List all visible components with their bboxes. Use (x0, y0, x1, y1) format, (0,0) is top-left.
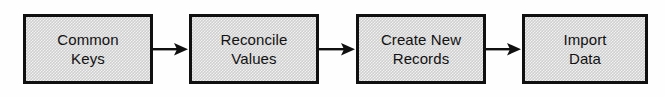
process-node-create-new-records[interactable]: Create New Records (356, 14, 486, 84)
arrow-right-icon (319, 41, 356, 57)
arrow-right-icon (486, 41, 522, 57)
diagram-canvas: Common Keys Reconcile Values Create New … (0, 0, 665, 97)
process-flow: Common Keys Reconcile Values Create New … (0, 0, 665, 97)
process-node-common-keys[interactable]: Common Keys (23, 14, 153, 84)
node-label-common-keys: Common Keys (57, 30, 118, 68)
node-label-create-new-records: Create New Records (381, 30, 461, 68)
arrow-connector-1 (153, 14, 189, 84)
node-label-reconcile-values: Reconcile Values (221, 30, 288, 68)
process-node-reconcile-values[interactable]: Reconcile Values (189, 14, 319, 84)
arrow-connector-3 (486, 14, 522, 84)
arrow-right-icon (153, 41, 189, 57)
left-margin-spacer (0, 14, 23, 84)
process-node-import-data[interactable]: Import Data (522, 14, 648, 84)
node-label-import-data: Import Data (563, 30, 606, 68)
arrow-connector-2 (319, 14, 356, 84)
